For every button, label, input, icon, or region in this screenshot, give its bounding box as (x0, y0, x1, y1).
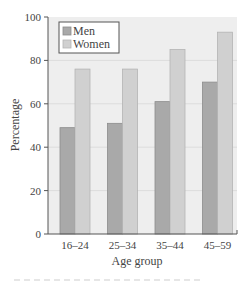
x-tick-label: 45–59 (204, 239, 232, 251)
y-tick-label: 100 (25, 11, 42, 23)
y-tick-label: 60 (30, 98, 42, 110)
bar-men-1 (108, 123, 123, 234)
x-tick-label: 25–34 (109, 239, 137, 251)
bar-women-2 (170, 50, 185, 234)
x-axis-tick-labels: 16–2425–3435–4445–59 (61, 239, 232, 251)
legend-label-women: Women (73, 37, 110, 51)
bar-chart: 020406080100 16–2425–3435–4445–59 Percen… (0, 0, 249, 282)
legend-label-men: Men (73, 24, 95, 38)
bar-women-0 (75, 69, 90, 234)
y-tick-label: 20 (30, 185, 42, 197)
x-axis-title: Age group (112, 254, 163, 268)
bar-women-1 (123, 69, 138, 234)
legend-swatch-men (63, 27, 71, 35)
y-tick-label: 40 (30, 141, 42, 153)
bar-men-3 (203, 82, 218, 234)
y-tick-label: 80 (30, 54, 42, 66)
bar-women-3 (218, 32, 233, 234)
y-tick-label: 0 (36, 228, 42, 240)
legend-swatch-women (63, 40, 71, 48)
bar-men-2 (155, 102, 170, 234)
x-tick-label: 16–24 (61, 239, 89, 251)
bar-men-0 (60, 128, 75, 234)
y-axis-title: Percentage (8, 99, 22, 152)
x-tick-label: 35–44 (156, 239, 184, 251)
legend: Men Women (59, 22, 119, 53)
y-axis-ticks: 020406080100 (25, 11, 49, 240)
